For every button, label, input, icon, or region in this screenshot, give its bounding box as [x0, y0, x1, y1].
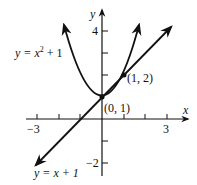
- tick-label-neg3: −3: [27, 122, 40, 136]
- point-0-1: [100, 95, 105, 100]
- parabola-equation: y = x2 + 1: [14, 45, 63, 60]
- point-label-1-2: (1, 2): [127, 71, 153, 85]
- point-1-2: [122, 73, 127, 78]
- tick-label-3: 3: [163, 122, 169, 136]
- tick-label-4: 4: [92, 24, 98, 38]
- tick-label-neg2: −2: [86, 156, 99, 170]
- line-equation: y = x + 1: [33, 166, 79, 180]
- x-axis-label: x: [182, 103, 189, 117]
- point-label-0-1: (0, 1): [104, 101, 130, 115]
- y-axis-label: y: [89, 7, 96, 21]
- graph: x y −3 3 4 −2 (0, 1) (1, 2) y = x2 + 1 y…: [0, 0, 197, 185]
